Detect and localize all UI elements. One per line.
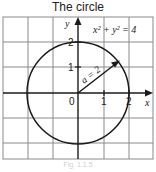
axes [3,20,150,159]
x-tick-2: 2 [126,96,132,107]
y-axis-label: y [64,18,70,29]
origin-label: 0 [69,96,75,107]
circle-diagram: y x 0 1 2 1 2 x² + y² = 4 a = 2 [0,0,156,172]
y-tick-1: 1 [68,62,74,73]
x-tick-1: 1 [101,96,107,107]
y-axis-arrow-icon [75,17,82,25]
x-axis-label: x [144,97,150,108]
y-tick-2: 2 [68,37,74,48]
figure-caption: Fig. 1.1.5 [0,161,156,168]
equation-label: x² + y² = 4 [92,24,136,35]
x-axis-arrow-icon [145,90,153,97]
